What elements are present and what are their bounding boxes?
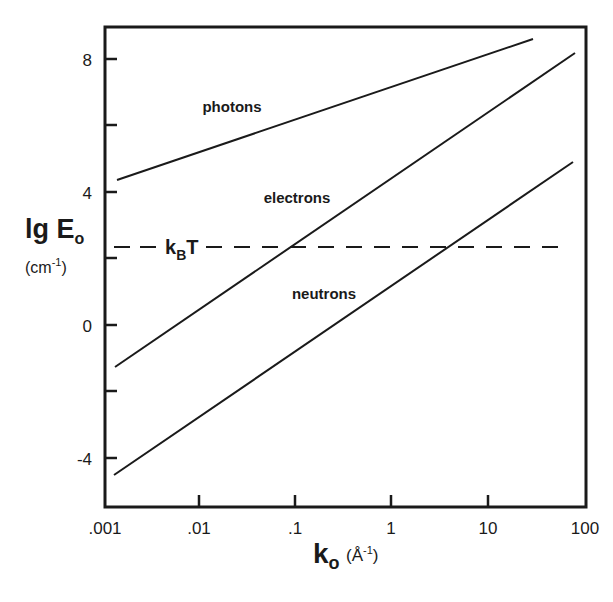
neutrons-label: neutrons	[292, 285, 356, 302]
photons-label: photons	[202, 98, 261, 115]
x-tick-label-0.01: .01	[187, 519, 211, 538]
x-tick-label-0.1: .1	[288, 519, 302, 538]
y-axis-units: (cm-1)	[25, 256, 67, 276]
plot-frame	[105, 27, 586, 507]
x-tick-label-1: 1	[386, 519, 395, 538]
y-tick-label-0: 0	[83, 317, 92, 336]
kbt-label: kBT	[165, 236, 198, 263]
x-tick-label-100: 100	[571, 519, 599, 538]
y-axis-title: lg Eo	[25, 214, 85, 247]
x-tick-label-0.001: .001	[88, 519, 121, 538]
x-axis-ticks	[199, 495, 488, 507]
x-axis-title: ko	[313, 538, 340, 573]
chart: 8 4 0 -4 .001 .01 .1 1 10 100 kBT photon…	[0, 0, 613, 602]
y-tick-label-minus4: -4	[77, 450, 92, 469]
electrons-label: electrons	[264, 189, 331, 206]
x-axis-units: (Å-1)	[346, 544, 378, 565]
y-tick-label-8: 8	[83, 51, 92, 70]
photons-line	[117, 39, 533, 180]
neutrons-line	[114, 162, 573, 475]
x-tick-label-10: 10	[479, 519, 498, 538]
y-tick-label-4: 4	[83, 184, 92, 203]
y-axis-ticks	[105, 59, 117, 458]
electrons-line	[115, 53, 575, 367]
